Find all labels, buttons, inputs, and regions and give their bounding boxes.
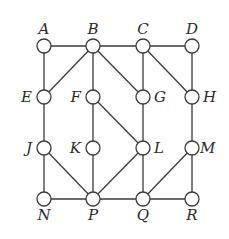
node-m: [185, 141, 199, 155]
edge-b-e: [44, 46, 93, 97]
edges-group: [44, 46, 192, 199]
node-g: [136, 90, 150, 104]
edge-m-q: [143, 148, 192, 199]
node-b: [86, 39, 100, 53]
node-h: [185, 90, 199, 104]
node-label-n: N: [36, 206, 51, 224]
node-label-j: J: [23, 139, 33, 157]
node-label-l: L: [153, 139, 164, 157]
graph-diagram: ABCDEFGHJKLMNPQR: [0, 0, 229, 239]
node-label-e: E: [20, 88, 32, 106]
node-r: [185, 192, 199, 206]
edge-c-h: [143, 46, 192, 97]
edge-f-l: [93, 97, 143, 148]
node-label-h: H: [202, 88, 217, 106]
node-label-b: B: [86, 20, 98, 38]
node-f: [86, 90, 100, 104]
node-j: [37, 141, 51, 155]
node-c: [136, 39, 150, 53]
node-p: [86, 192, 100, 206]
node-a: [37, 39, 51, 53]
edge-j-p: [44, 148, 93, 199]
node-label-f: F: [70, 88, 82, 106]
edge-b-g: [93, 46, 143, 97]
node-label-m: M: [199, 139, 216, 157]
node-d: [185, 39, 199, 53]
node-label-c: C: [137, 20, 149, 38]
node-label-p: P: [87, 206, 99, 224]
node-label-d: D: [185, 20, 198, 38]
node-label-a: A: [37, 20, 50, 38]
node-k: [86, 141, 100, 155]
node-label-q: Q: [137, 206, 149, 224]
node-label-g: G: [154, 88, 166, 106]
node-l: [136, 141, 150, 155]
node-label-r: R: [185, 206, 197, 224]
node-n: [37, 192, 51, 206]
edge-l-p: [93, 148, 143, 199]
node-label-k: K: [69, 139, 82, 157]
node-e: [37, 90, 51, 104]
node-q: [136, 192, 150, 206]
